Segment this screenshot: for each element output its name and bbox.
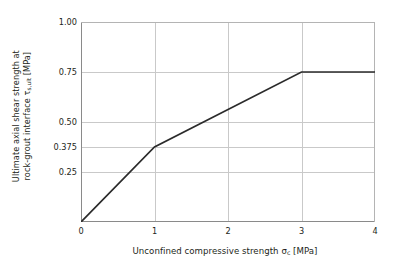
y-tick-label: 0.75 [59,67,77,77]
x-axis-label-main: Unconfined compressive strength σ [132,246,286,256]
y-axis-label-unit: [MPa] [22,52,32,78]
x-tick-label: 4 [372,226,377,236]
y-tick-label: 0.50 [59,117,77,127]
x-tick-label: 0 [78,226,83,236]
x-tick-label: 2 [225,226,230,236]
y-axis-label-line2-main: rock-grout interface τ [22,90,32,180]
chart-canvas [81,22,375,222]
plot-area [81,22,375,222]
x-tick-label: 1 [152,226,157,236]
y-tick-label: 1.00 [59,17,77,27]
chart-figure: Ultimate axial shear strength at rock-gr… [0,0,409,272]
y-axis-label: Ultimate axial shear strength at rock-gr… [0,0,46,232]
x-tick-labels: 01234 [0,226,409,240]
x-axis-label: Unconfined compressive strength σc [MPa] [60,246,390,256]
y-tick-label: 0.25 [59,167,77,177]
y-tick-label: 0.375 [54,142,77,152]
y-axis-label-subscript: s,ult [26,78,32,91]
x-tick-label: 3 [299,226,304,236]
y-axis-label-line1: Ultimate axial shear strength at [11,50,21,182]
y-axis-label-line2: rock-grout interface τs,ult [MPa] [22,50,35,182]
x-axis-label-unit: [MPa] [290,246,317,256]
